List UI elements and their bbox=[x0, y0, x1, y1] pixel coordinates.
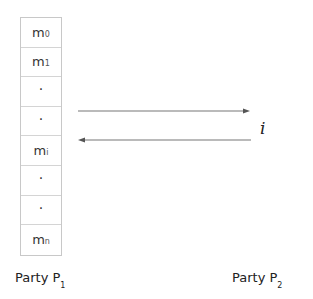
arrows bbox=[0, 0, 313, 299]
arrow-right-icon bbox=[78, 109, 250, 114]
party-p1-label: Party P1 bbox=[15, 270, 65, 288]
index-label: i bbox=[260, 118, 265, 138]
party-text: Party P bbox=[15, 270, 60, 285]
party-sub: 1 bbox=[60, 281, 65, 290]
party-p2-label: Party P2 bbox=[232, 270, 282, 288]
party-sub: 2 bbox=[277, 281, 282, 290]
party-text: Party P bbox=[232, 270, 277, 285]
arrow-left-icon bbox=[78, 138, 251, 143]
